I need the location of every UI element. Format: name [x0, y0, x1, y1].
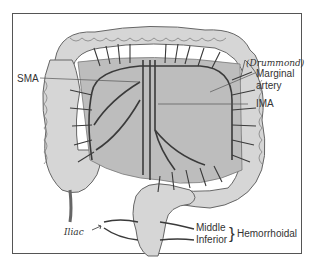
brace-symbol: }	[229, 225, 235, 242]
label-inferior: Inferior	[196, 235, 227, 245]
label-hemorrhoidal: Hemorrhoidal	[237, 229, 297, 239]
label-marginal: Marginal	[256, 69, 294, 79]
label-sma: SMA	[17, 74, 39, 84]
iliac-arrow-icon	[92, 225, 101, 230]
label-artery: artery	[256, 81, 282, 91]
label-iliac: Iliac	[64, 227, 84, 237]
label-drummond: (Drummond)	[246, 58, 304, 68]
appendix	[70, 190, 71, 222]
label-ima: IMA	[256, 99, 274, 109]
label-middle: Middle	[196, 223, 225, 233]
